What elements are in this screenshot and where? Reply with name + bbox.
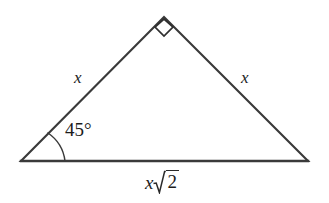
right-angle-marker bbox=[155, 19, 173, 36]
hypotenuse-coefficient: x bbox=[145, 170, 153, 194]
radicand: 2 bbox=[166, 170, 179, 194]
label-angle-45: 45° bbox=[65, 120, 92, 139]
geometry-diagram: x x 45° x 2 bbox=[0, 0, 329, 203]
radical-group: 2 bbox=[153, 170, 179, 194]
label-hypotenuse: x 2 bbox=[145, 170, 179, 194]
label-leg-left: x bbox=[74, 69, 82, 86]
label-leg-right: x bbox=[241, 69, 249, 86]
angle-arc-45 bbox=[48, 133, 65, 161]
radical-sign-icon bbox=[153, 170, 166, 194]
